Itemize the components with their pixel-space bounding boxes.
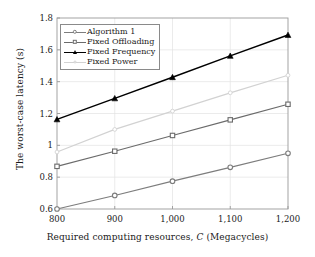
legend-label: Fixed Power	[86, 57, 137, 67]
x-axis-title-suffix: (Megacycles)	[206, 232, 268, 242]
circle-marker	[55, 207, 60, 212]
x-tick-label: 1,000	[151, 214, 195, 224]
y-axis-title: The worst-case latency (s)	[15, 19, 25, 199]
triangle-marker	[73, 50, 77, 54]
x-axis-title-prefix: Required computing resources,	[47, 232, 194, 242]
y-tick-label: 0.6	[17, 204, 53, 214]
small-circle-marker	[228, 91, 232, 95]
triangle-marker	[285, 32, 291, 37]
square-marker	[55, 164, 59, 168]
x-axis-title-symbol: C	[196, 232, 203, 242]
legend-item: Fixed Offloading	[64, 37, 155, 47]
square-marker	[228, 118, 232, 122]
x-tick-label: 800	[35, 214, 79, 224]
square-marker	[73, 40, 77, 44]
legend-item: Algorithm 1	[64, 27, 155, 37]
circle-marker	[170, 179, 175, 184]
small-circle-marker	[171, 109, 175, 113]
legend-marker	[64, 27, 86, 37]
x-tick-label: 900	[93, 214, 137, 224]
x-axis-title: Required computing resources, C (Megacyc…	[0, 232, 315, 242]
circle-marker	[286, 151, 291, 156]
legend-label: Fixed Frequency	[86, 47, 155, 57]
legend-marker	[64, 57, 86, 67]
chart-figure: 0.60.811.21.41.61.8 8009001,0001,1001,20…	[0, 0, 315, 257]
legend-marker	[64, 37, 86, 47]
legend-item: Fixed Power	[64, 57, 155, 67]
square-marker	[170, 133, 174, 137]
circle-marker	[112, 193, 117, 198]
small-circle-marker	[113, 128, 117, 132]
small-circle-marker	[74, 61, 77, 64]
circle-marker	[73, 30, 77, 34]
square-marker	[286, 102, 290, 106]
legend-item: Fixed Frequency	[64, 47, 155, 57]
square-marker	[113, 149, 117, 153]
chart-legend: Algorithm 1Fixed OffloadingFixed Frequen…	[60, 24, 160, 70]
legend-label: Algorithm 1	[86, 27, 135, 37]
small-circle-marker	[55, 150, 59, 154]
legend-marker	[64, 47, 86, 57]
x-tick-label: 1,100	[208, 214, 252, 224]
legend-label: Fixed Offloading	[86, 37, 154, 47]
x-tick-label: 1,200	[266, 214, 310, 224]
small-circle-marker	[286, 73, 290, 77]
circle-marker	[228, 165, 233, 170]
